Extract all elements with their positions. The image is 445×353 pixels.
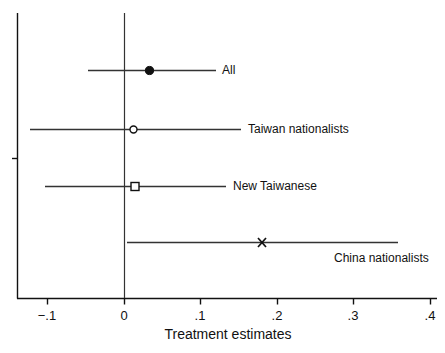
marker-filled-circle-all <box>145 66 153 74</box>
x-tick-label-0.2: .2 <box>272 309 283 322</box>
series-label-all: All <box>222 64 235 76</box>
x-axis-title: Treatment estimates <box>164 326 291 342</box>
series-label-taiwan-nationalists: Taiwan nationalists <box>248 123 349 135</box>
plot-canvas <box>0 0 445 353</box>
series-row-taiwan-nationalists <box>30 126 241 133</box>
x-tick-label-0.3: .3 <box>348 309 359 322</box>
marker-open-square-new-taiwanese <box>131 183 139 191</box>
series-row-china-nationalists <box>127 238 398 247</box>
x-tick-label-0: 0 <box>120 309 127 322</box>
x-axis-ticks <box>48 299 431 305</box>
coefficient-plot: −.1 0 .1 .2 .3 .4 All Taiwan nationalist… <box>0 0 445 353</box>
series-label-new-taiwanese: New Taiwanese <box>233 180 317 192</box>
x-tick-label--0.1: −.1 <box>38 309 56 322</box>
series-label-china-nationalists: China nationalists <box>334 252 429 264</box>
marker-open-circle-taiwan-nationalists <box>130 126 137 133</box>
x-tick-label-0.4: .4 <box>425 309 436 322</box>
series-row-new-taiwanese <box>45 183 226 191</box>
series-row-all <box>88 66 216 74</box>
x-tick-label-0.1: .1 <box>195 309 206 322</box>
